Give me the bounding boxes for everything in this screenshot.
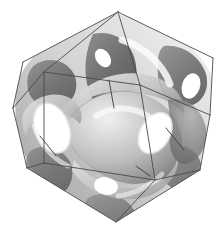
minimal-surface-figure (0, 0, 224, 233)
figure-container: Triply periodic minimal surface in a cub… (0, 0, 224, 233)
